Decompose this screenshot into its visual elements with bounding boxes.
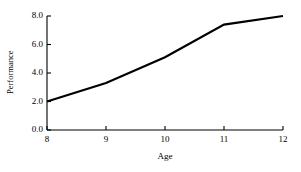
x-tick-label: 11 (209, 135, 239, 144)
y-tick-label: 0.0 (32, 125, 43, 134)
x-tick-label: 12 (268, 135, 298, 144)
x-tick-label: 9 (91, 135, 121, 144)
y-tick-label: 6.0 (32, 40, 43, 49)
line-chart-plot (0, 0, 301, 172)
y-tick-label: 8.0 (32, 11, 43, 20)
chart-background (0, 0, 301, 172)
y-tick-label: 2.0 (32, 97, 43, 106)
y-tick-label: 4.0 (32, 68, 43, 77)
x-axis-title: Age (125, 152, 205, 161)
x-tick-label: 10 (150, 135, 180, 144)
chart-figure: 0.02.04.06.08.0 89101112 Performance Age (0, 0, 301, 172)
x-tick-label: 8 (32, 135, 62, 144)
y-axis-title: Performance (6, 43, 15, 101)
